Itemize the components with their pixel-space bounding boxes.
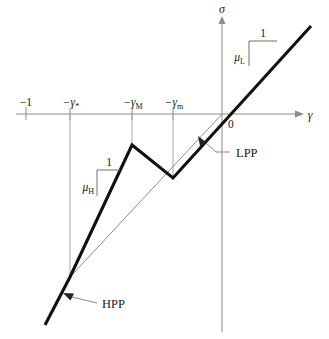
- annotation-leaders: [63, 136, 230, 303]
- tick-label-minus-gamma-m: −γm: [165, 96, 184, 111]
- sigma-axis-label: σ: [219, 2, 226, 16]
- slope-label-mu-L: μL: [233, 51, 245, 66]
- lpp-leader-line: [206, 143, 230, 152]
- origin-label: 0: [228, 118, 234, 130]
- slope-label-mu-H: μH: [81, 181, 94, 196]
- tick-label-minus-gamma-M: −γM: [123, 96, 142, 111]
- stress-strain-diagram: σ γ 0 −1 −γ* −γM −γm μL 1 μH: [0, 0, 329, 339]
- tick-label-minus-gamma-star: −γ*: [63, 96, 79, 111]
- hpp-leader-line: [72, 297, 97, 303]
- tick-label-minus-one: −1: [20, 96, 32, 108]
- slope-run-label-mu-H: 1: [106, 156, 112, 168]
- gamma-axis-label: γ: [308, 108, 313, 122]
- annotation-lpp: LPP: [236, 146, 258, 160]
- slope-triangle-mu-L: [249, 41, 277, 66]
- hpp-leader-arrowhead: [63, 293, 74, 301]
- response-curve: [45, 26, 311, 325]
- sigma-axis-arrowhead: [219, 16, 226, 24]
- gamma-axis-arrowhead: [295, 111, 304, 118]
- tick-group: [26, 107, 173, 279]
- annotation-hpp: HPP: [102, 297, 125, 311]
- axis-group: [16, 16, 304, 332]
- slope-run-label-mu-L: 1: [260, 27, 266, 39]
- slope-marker-mu-L: [249, 41, 277, 66]
- diagram-canvas: σ γ 0 −1 −γ* −γM −γm μL 1 μH: [0, 0, 329, 339]
